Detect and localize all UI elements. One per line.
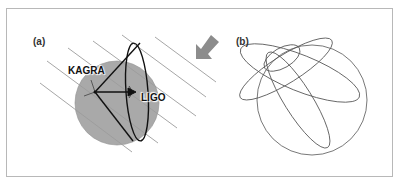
sky-sphere	[233, 29, 367, 155]
kagra-point	[94, 91, 97, 94]
wave-direction-arrow	[196, 35, 219, 59]
kagra-label: KAGRA	[68, 65, 105, 76]
diagram-canvas	[0, 0, 399, 186]
panel-a-label: (a)	[33, 36, 45, 47]
ligo-label: LIGO	[141, 92, 165, 103]
panel-b-label: (b)	[236, 36, 249, 47]
